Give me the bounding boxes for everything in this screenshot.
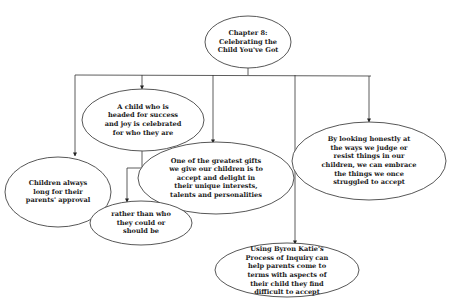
rather-node-label: rather than who they could or should be — [111, 210, 171, 236]
celebrated-node-label: A child who is headed for success and jo… — [105, 103, 182, 137]
rather-node: rather than who they could or should be — [90, 201, 192, 245]
honestly-node: By looking honestly at the ways we judge… — [292, 122, 446, 200]
root-node-label: Chapter 8: Celebrating the Child You've … — [218, 29, 279, 55]
root-bus-line — [75, 75, 371, 76]
katie-node-label: Using Byron Katie's Process of Inquiry c… — [246, 245, 329, 297]
katie-node: Using Byron Katie's Process of Inquiry c… — [215, 244, 359, 298]
honestly-node-label: By looking honestly at the ways we judge… — [322, 135, 417, 187]
root-node: Chapter 8: Celebrating the Child You've … — [205, 16, 291, 68]
approval-node-label: Children always long for their parents' … — [26, 179, 90, 205]
gifts-node-label: One of the greatest gifts we give our ch… — [169, 157, 263, 200]
